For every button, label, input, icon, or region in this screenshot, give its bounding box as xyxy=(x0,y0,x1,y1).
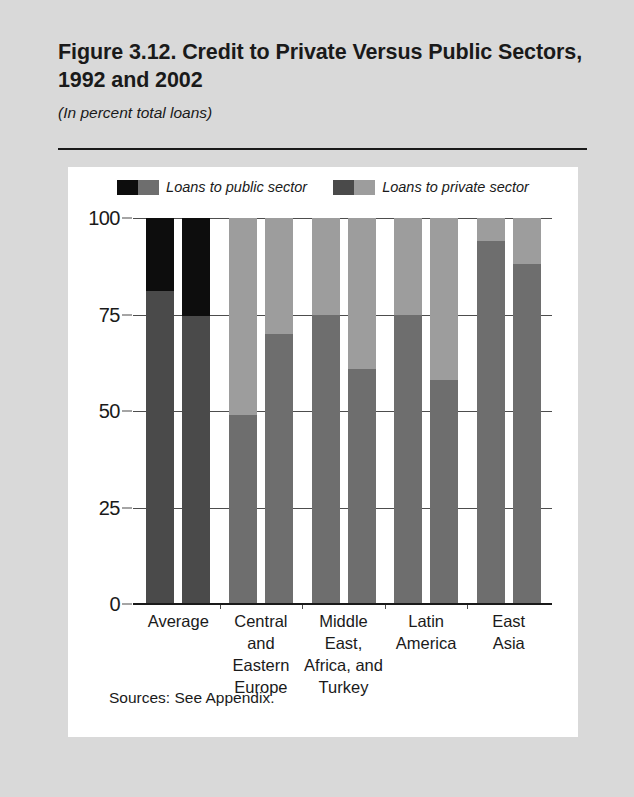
bar[interactable] xyxy=(348,218,376,604)
header-divider xyxy=(58,148,587,150)
y-tick-mark xyxy=(122,604,132,605)
bar-segment-private-sector xyxy=(513,264,541,604)
bar-group xyxy=(312,218,376,604)
bar-segment-public-sector xyxy=(229,218,257,415)
y-tick-label: 100 xyxy=(88,207,120,230)
x-axis-category-label-line: Africa, and xyxy=(302,655,385,677)
plot-area xyxy=(133,218,552,604)
x-axis-category-label-line: and xyxy=(220,633,303,655)
x-axis-category-label-line: East xyxy=(467,611,550,633)
figure-header: Figure 3.12. Credit to Private Versus Pu… xyxy=(58,38,588,122)
bar-group xyxy=(146,218,210,604)
bar-segment-public-sector xyxy=(146,218,174,291)
bar-segment-private-sector xyxy=(146,291,174,604)
bar[interactable] xyxy=(265,218,293,604)
x-axis-category-label-line: Central xyxy=(220,611,303,633)
y-tick-mark xyxy=(122,314,132,315)
bar[interactable] xyxy=(394,218,422,604)
bar[interactable] xyxy=(146,218,174,604)
x-axis-category-label: CentralandEasternEurope xyxy=(220,611,303,699)
bar[interactable] xyxy=(229,218,257,604)
y-tick-mark xyxy=(122,507,132,508)
bar[interactable] xyxy=(513,218,541,604)
bar-segment-private-sector xyxy=(182,316,210,604)
x-axis-category-label: Average xyxy=(137,611,220,633)
y-axis-tick-labels: 0255075100 xyxy=(68,218,120,604)
y-tick-label: 25 xyxy=(99,496,120,519)
x-axis-category-label: MiddleEast,Africa, andTurkey xyxy=(302,611,385,699)
y-tick-mark xyxy=(122,411,132,412)
x-axis-line xyxy=(133,603,552,605)
bar-segment-private-sector xyxy=(312,315,340,605)
x-axis-category-label-line: America xyxy=(385,633,468,655)
bar[interactable] xyxy=(430,218,458,604)
bar-segment-public-sector xyxy=(312,218,340,315)
bar[interactable] xyxy=(182,218,210,604)
x-axis-category-label-line: Asia xyxy=(467,633,550,655)
bar-segment-public-sector xyxy=(265,218,293,334)
x-axis-category-label-line: Latin xyxy=(385,611,468,633)
chart-plot: 0255075100 AverageCentralandEasternEurop… xyxy=(68,167,578,737)
bar-segment-private-sector xyxy=(229,415,257,604)
bar-segment-public-sector xyxy=(477,218,505,241)
bar-segment-public-sector xyxy=(430,218,458,380)
source-note: Sources: See Appendix. xyxy=(109,689,274,707)
bar-segment-public-sector xyxy=(348,218,376,369)
x-axis-category-label-line: Average xyxy=(137,611,220,633)
chart-card: Loans to public sectorLoans to private s… xyxy=(68,167,578,737)
x-axis-category-label: EastAsia xyxy=(467,611,550,655)
bar-group xyxy=(477,218,541,604)
x-axis-category-label-line: Eastern xyxy=(220,655,303,677)
bar-segment-public-sector xyxy=(394,218,422,315)
bar[interactable] xyxy=(312,218,340,604)
x-axis-category-label-line: Middle xyxy=(302,611,385,633)
x-axis-category-label-line: East, xyxy=(302,633,385,655)
y-tick-label: 0 xyxy=(109,593,120,616)
figure-root: Figure 3.12. Credit to Private Versus Pu… xyxy=(0,0,634,797)
y-tick-mark xyxy=(122,218,132,219)
x-axis-category-label-line: Turkey xyxy=(302,677,385,699)
figure-subtitle: (In percent total loans) xyxy=(58,104,588,123)
bar-segment-private-sector xyxy=(430,380,458,604)
bar-segment-private-sector xyxy=(348,369,376,604)
y-tick-label: 50 xyxy=(99,400,120,423)
x-axis-category-label: LatinAmerica xyxy=(385,611,468,655)
bar-segment-public-sector xyxy=(513,218,541,264)
bar-segment-public-sector xyxy=(182,218,210,316)
bar-group xyxy=(394,218,458,604)
bar-segment-private-sector xyxy=(477,241,505,604)
figure-title: Figure 3.12. Credit to Private Versus Pu… xyxy=(58,38,588,95)
bar-segment-private-sector xyxy=(265,334,293,604)
bar-group xyxy=(229,218,293,604)
bar[interactable] xyxy=(477,218,505,604)
bar-segment-private-sector xyxy=(394,315,422,605)
y-tick-label: 75 xyxy=(99,303,120,326)
